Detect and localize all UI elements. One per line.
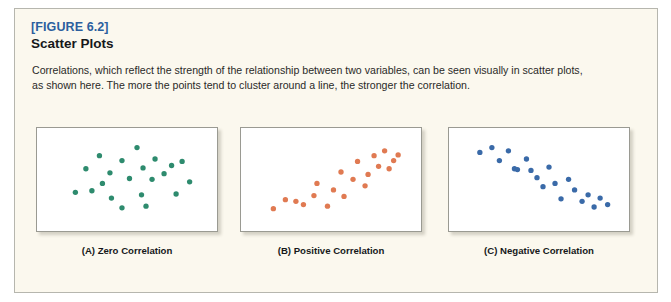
- scatter-point: [127, 176, 132, 181]
- plot-box: [240, 127, 422, 232]
- figure-panel: [FIGURE 6.2] Scatter Plots Correlations,…: [14, 8, 658, 293]
- figure-description: Correlations, which reflect the strength…: [32, 63, 592, 93]
- scatter-point: [187, 179, 192, 184]
- scatter-point: [534, 175, 539, 180]
- scatter-point: [143, 204, 148, 209]
- scatter-point: [552, 181, 557, 186]
- scatter-point: [605, 202, 610, 207]
- scatter-point: [140, 165, 145, 170]
- scatter-point: [585, 192, 590, 197]
- scatter-svg-positive: [241, 128, 421, 231]
- scatter-point: [515, 167, 520, 172]
- scatter-point: [169, 163, 174, 168]
- scatter-svg-negative: [449, 128, 629, 231]
- scatter-point: [83, 166, 88, 171]
- scatter-point: [540, 184, 545, 189]
- scatter-point: [119, 158, 124, 163]
- scatter-point: [341, 194, 346, 199]
- scatter-point: [477, 150, 482, 155]
- plot-caption-zero: (A) Zero Correlation: [36, 245, 218, 256]
- scatter-point: [524, 156, 529, 161]
- scatter-point: [506, 148, 511, 153]
- scatter-point: [139, 192, 144, 197]
- scatter-point: [107, 170, 112, 175]
- scatter-point: [161, 171, 166, 176]
- scatter-point: [314, 181, 319, 186]
- scatter-point: [528, 168, 533, 173]
- scatter-point: [311, 193, 316, 198]
- scatter-point: [97, 153, 102, 158]
- scatter-point: [338, 169, 343, 174]
- scatter-point: [365, 172, 370, 177]
- scatter-plot-zero-correlation: (A) Zero Correlation: [36, 127, 218, 256]
- plot-caption-positive: (B) Positive Correlation: [240, 245, 422, 256]
- scatter-point: [134, 145, 139, 150]
- scatter-point: [376, 164, 381, 169]
- scatter-point: [271, 206, 276, 211]
- scatter-svg-zero: [37, 128, 217, 231]
- scatter-point: [325, 204, 330, 209]
- scatter-point: [579, 199, 584, 204]
- scatter-plots-row: (A) Zero Correlation (B) Positive Correl…: [15, 127, 659, 277]
- scatter-point: [489, 145, 494, 150]
- scatter-point: [119, 205, 124, 210]
- scatter-point: [371, 153, 376, 158]
- scatter-point: [382, 148, 387, 153]
- scatter-point: [283, 197, 288, 202]
- scatter-point: [386, 166, 391, 171]
- scatter-point: [558, 196, 563, 201]
- scatter-point: [149, 177, 154, 182]
- plot-caption-negative: (C) Negative Correlation: [448, 245, 630, 256]
- figure-label: [FIGURE 6.2]: [31, 20, 109, 34]
- page-title: Scatter Plots: [31, 36, 114, 51]
- scatter-point: [391, 158, 396, 163]
- scatter-point: [497, 158, 502, 163]
- scatter-point: [293, 199, 298, 204]
- plot-box: [36, 127, 218, 232]
- plot-box: [448, 127, 630, 232]
- scatter-point: [591, 204, 596, 209]
- scatter-point: [89, 188, 94, 193]
- scatter-point: [331, 187, 336, 192]
- scatter-point: [152, 156, 157, 161]
- scatter-plot-negative-correlation: (C) Negative Correlation: [448, 127, 630, 256]
- scatter-point: [395, 152, 400, 157]
- scatter-point: [73, 190, 78, 195]
- scatter-point: [301, 202, 306, 207]
- scatter-point: [179, 159, 184, 164]
- scatter-point: [355, 159, 360, 164]
- scatter-point: [546, 164, 551, 169]
- scatter-point: [100, 181, 105, 186]
- scatter-point: [572, 187, 577, 192]
- scatter-point: [109, 195, 114, 200]
- scatter-point: [362, 183, 367, 188]
- scatter-point: [350, 177, 355, 182]
- scatter-point: [597, 195, 602, 200]
- scatter-point: [566, 177, 571, 182]
- scatter-plot-positive-correlation: (B) Positive Correlation: [240, 127, 422, 256]
- scatter-point: [173, 191, 178, 196]
